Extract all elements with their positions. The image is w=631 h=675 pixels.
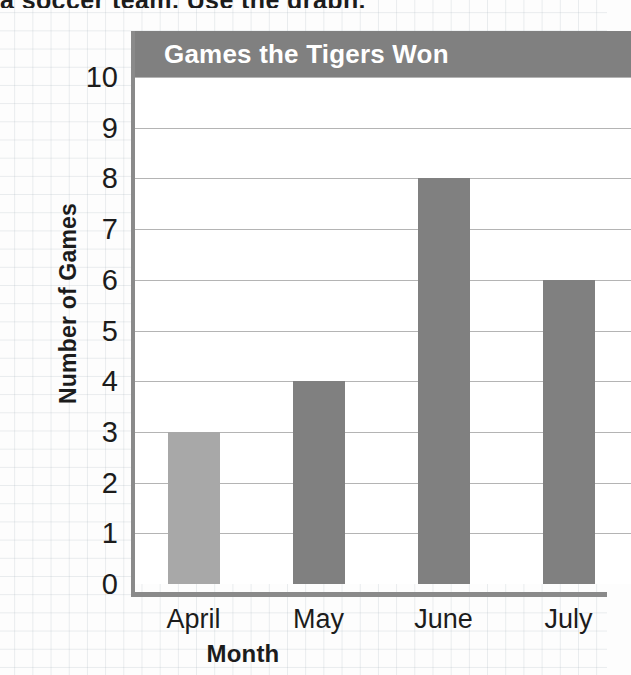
gridline bbox=[131, 128, 631, 129]
y-tick-label: 10 bbox=[72, 61, 118, 94]
y-tick-label: 2 bbox=[72, 466, 118, 499]
bar-june bbox=[418, 178, 470, 584]
y-tick-label: 9 bbox=[72, 111, 118, 144]
y-tick-label: 0 bbox=[72, 568, 118, 601]
x-tick-label: April bbox=[166, 604, 220, 635]
gridline bbox=[131, 77, 631, 78]
y-tick-label: 1 bbox=[72, 517, 118, 550]
plot-area bbox=[131, 77, 631, 584]
x-axis-tick-labels: AprilMayJuneJuly bbox=[131, 604, 631, 638]
gridline bbox=[131, 229, 631, 230]
cropped-header-text: a soccer team. Use the graph. bbox=[0, 0, 607, 8]
bar-july bbox=[543, 280, 595, 584]
y-axis-line bbox=[131, 31, 135, 597]
x-axis-title: Month bbox=[207, 640, 280, 668]
x-axis-line bbox=[131, 592, 607, 597]
bar-april bbox=[168, 432, 220, 584]
bar-may bbox=[293, 381, 345, 584]
x-tick-label: May bbox=[293, 604, 344, 635]
y-axis-title: Number of Games bbox=[55, 179, 82, 429]
gridline bbox=[131, 178, 631, 179]
bar-chart: Games the Tigers Won bbox=[131, 31, 631, 597]
x-tick-label: July bbox=[544, 604, 592, 635]
chart-title: Games the Tigers Won bbox=[131, 31, 631, 77]
x-tick-label: June bbox=[414, 604, 473, 635]
